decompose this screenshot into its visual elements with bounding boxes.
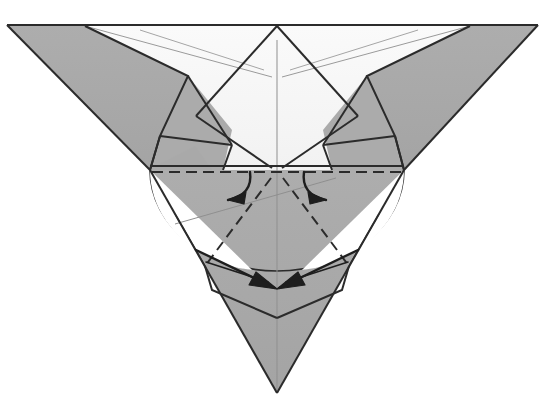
origami-figure	[0, 0, 545, 419]
origami-diagram-root	[0, 0, 545, 419]
